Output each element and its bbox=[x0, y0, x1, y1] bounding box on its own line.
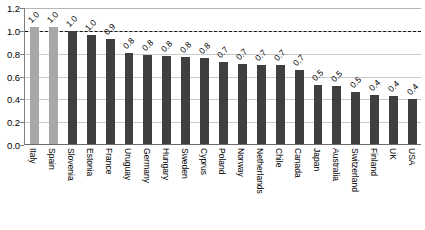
bar-group: 0.7 bbox=[219, 8, 228, 145]
bar-group: 0.7 bbox=[257, 8, 266, 145]
bar-value-label: 0.4 bbox=[404, 82, 419, 97]
bar[interactable] bbox=[257, 65, 266, 145]
y-tick-mark bbox=[20, 145, 24, 146]
bar[interactable] bbox=[181, 57, 190, 145]
y-tick-label: 1.2 bbox=[7, 3, 20, 14]
y-axis: 0.00.20.40.60.81.01.2 bbox=[0, 0, 24, 230]
x-tick-label: USA bbox=[407, 148, 417, 165]
x-axis-category-labels: ItalySpainSloveniaEstoniaFranceUruguayGe… bbox=[24, 148, 421, 230]
bar-value-label: 1.0 bbox=[83, 18, 98, 33]
bar-value-label: 0.7 bbox=[272, 48, 287, 63]
y-tick-label: 0.8 bbox=[7, 48, 20, 59]
x-label-slot: Netherlands bbox=[251, 148, 270, 230]
x-tick-label: Italy bbox=[28, 148, 38, 164]
bar-group: 0.9 bbox=[106, 8, 115, 145]
x-label-slot: Germany bbox=[137, 148, 156, 230]
x-label-slot: Uruguay bbox=[119, 148, 138, 230]
bar[interactable] bbox=[351, 92, 360, 145]
y-tick-label: 0.2 bbox=[7, 117, 20, 128]
x-label-slot: Chile bbox=[270, 148, 289, 230]
x-tick-label: Hungary bbox=[161, 148, 171, 180]
x-label-slot: Sweden bbox=[175, 148, 194, 230]
bar[interactable] bbox=[238, 64, 247, 145]
bar-group: 0.5 bbox=[314, 8, 323, 145]
bar[interactable] bbox=[30, 27, 39, 145]
bar-series: 1.01.01.01.00.90.80.80.80.80.80.70.70.70… bbox=[25, 8, 421, 145]
bar[interactable] bbox=[276, 65, 285, 145]
y-tick-label: 0.0 bbox=[7, 140, 20, 151]
plot-area: 1.01.01.01.00.90.80.80.80.80.80.70.70.70… bbox=[24, 8, 421, 145]
x-label-slot: Italy bbox=[24, 148, 43, 230]
bar-value-label: 0.7 bbox=[291, 52, 306, 67]
bar-group: 0.8 bbox=[162, 8, 171, 145]
bar-group: 0.8 bbox=[200, 8, 209, 145]
bar-value-label: 1.0 bbox=[45, 10, 60, 25]
x-tick-label: Canada bbox=[293, 148, 303, 178]
x-tick-label: Cyprus bbox=[199, 148, 209, 175]
bar-group: 0.4 bbox=[370, 8, 379, 145]
x-tick-label: Chile bbox=[274, 148, 284, 167]
y-tick-label: 1.0 bbox=[7, 25, 20, 36]
y-tick-label: 0.6 bbox=[7, 71, 20, 82]
bar[interactable] bbox=[200, 58, 209, 145]
bar-value-label: 1.0 bbox=[26, 10, 41, 25]
bar-value-label: 0.4 bbox=[367, 77, 382, 92]
bar-group: 0.8 bbox=[125, 8, 134, 145]
bar-group: 0.7 bbox=[276, 8, 285, 145]
x-tick-label: Australia bbox=[331, 148, 341, 181]
bar[interactable] bbox=[87, 35, 96, 145]
bar-value-label: 0.7 bbox=[215, 44, 230, 59]
bar[interactable] bbox=[408, 99, 417, 145]
bar-value-label: 0.7 bbox=[253, 48, 268, 63]
bar-value-label: 0.8 bbox=[178, 40, 193, 55]
bar[interactable] bbox=[143, 55, 152, 145]
bar-value-label: 0.8 bbox=[159, 39, 174, 54]
bar[interactable] bbox=[125, 53, 134, 145]
x-label-slot: Japan bbox=[308, 148, 327, 230]
x-label-slot: Hungary bbox=[156, 148, 175, 230]
x-tick-label: Spain bbox=[47, 148, 57, 170]
bar-group: 1.0 bbox=[49, 8, 58, 145]
bar[interactable] bbox=[68, 31, 77, 145]
bar[interactable] bbox=[389, 96, 398, 145]
x-tick-label: Sweden bbox=[180, 148, 190, 179]
bar-group: 1.0 bbox=[87, 8, 96, 145]
x-label-slot: Slovenia bbox=[62, 148, 81, 230]
bar-group: 0.8 bbox=[143, 8, 152, 145]
bar-group: 0.4 bbox=[408, 8, 417, 145]
bar-value-label: 0.8 bbox=[140, 37, 155, 52]
bar[interactable] bbox=[332, 86, 341, 145]
bar-value-label: 0.8 bbox=[121, 35, 136, 50]
bar[interactable] bbox=[106, 39, 115, 145]
x-tick-label: France bbox=[104, 148, 114, 174]
bar[interactable] bbox=[295, 70, 304, 145]
x-label-slot: Canada bbox=[289, 148, 308, 230]
y-tick-label: 0.4 bbox=[7, 94, 20, 105]
x-tick-label: Japan bbox=[312, 148, 322, 171]
bar[interactable] bbox=[162, 56, 171, 145]
bar-group: 0.7 bbox=[295, 8, 304, 145]
bar-value-label: 1.0 bbox=[64, 13, 79, 28]
x-label-slot: Switzerland bbox=[345, 148, 364, 230]
x-tick-label: Germany bbox=[142, 148, 152, 183]
bar-group: 0.7 bbox=[238, 8, 247, 145]
x-label-slot: Poland bbox=[213, 148, 232, 230]
x-label-slot: Estonia bbox=[81, 148, 100, 230]
x-tick-label: Poland bbox=[217, 148, 227, 174]
bar-group: 0.5 bbox=[351, 8, 360, 145]
x-tick-label: Slovenia bbox=[66, 148, 76, 181]
bar[interactable] bbox=[49, 27, 58, 145]
x-tick-label: Switzerland bbox=[350, 148, 360, 192]
x-label-slot: Spain bbox=[43, 148, 62, 230]
x-tick-label: Norway bbox=[236, 148, 246, 177]
x-label-slot: UK bbox=[383, 148, 402, 230]
bar[interactable] bbox=[314, 85, 323, 146]
bar-group: 0.5 bbox=[332, 8, 341, 145]
bar-value-label: 0.9 bbox=[102, 21, 117, 36]
bar[interactable] bbox=[370, 95, 379, 145]
x-tick-label: UK bbox=[388, 148, 398, 160]
bar-group: 0.8 bbox=[181, 8, 190, 145]
bar[interactable] bbox=[219, 62, 228, 145]
x-tick-label: Netherlands bbox=[255, 148, 265, 194]
bar-value-label: 0.5 bbox=[329, 68, 344, 83]
